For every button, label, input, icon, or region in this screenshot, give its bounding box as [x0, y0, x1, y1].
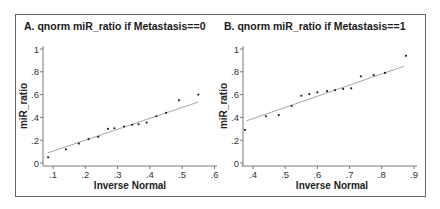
x-tick-label: .4	[249, 169, 257, 180]
y-tick-label: .6	[231, 89, 239, 100]
y-tick-label: .4	[31, 112, 39, 123]
x-tick-label: .6	[313, 169, 321, 180]
data-point	[65, 148, 67, 150]
y-tick-label: .6	[31, 89, 39, 100]
data-point	[97, 136, 99, 138]
data-point	[334, 89, 336, 91]
y-tick-label: 1	[34, 44, 39, 55]
panel-b-y-axis-title: miR_ratio	[218, 83, 229, 129]
data-point	[137, 123, 139, 125]
panel-a-y-axis-title: miR_ratio	[18, 83, 29, 129]
x-tick-label: .4	[146, 169, 154, 180]
reference-fit-line	[48, 102, 198, 153]
data-point	[87, 138, 89, 140]
data-point	[373, 74, 375, 76]
data-point	[178, 99, 180, 101]
data-point	[197, 94, 199, 96]
data-point	[308, 93, 310, 95]
data-point	[405, 55, 407, 57]
panel-b-metastasis-1: B. qnorm miR_ratio if Metastasis==1 miR_…	[218, 20, 418, 191]
panel-a-x-ticks: .1.2.3.4.5.6	[43, 166, 218, 180]
data-point	[47, 156, 49, 158]
data-point	[113, 127, 115, 129]
x-tick-label: .6	[211, 169, 219, 180]
qnorm-plots-svg: A. qnorm miR_ratio if Metastasis==0 miR_…	[0, 0, 440, 209]
x-tick-label: .5	[281, 169, 289, 180]
panel-a-x-axis-title: Inverse Normal	[94, 180, 166, 191]
panel-a-y-ticks: 0.2.4.6.81	[31, 44, 43, 169]
y-tick-label: .2	[231, 135, 239, 146]
x-tick-label: .1	[49, 169, 57, 180]
qnorm-figure: A. qnorm miR_ratio if Metastasis==0 miR_…	[0, 0, 440, 209]
y-tick-label: 1	[234, 44, 239, 55]
x-tick-label: .9	[410, 169, 418, 180]
x-tick-label: .7	[346, 169, 354, 180]
y-tick-label: .4	[231, 112, 239, 123]
panel-b-y-ticks: 0.2.4.6.81	[231, 44, 243, 169]
data-point	[350, 87, 352, 89]
reference-fit-line	[247, 66, 405, 121]
panel-b-x-ticks: .4.5.6.7.8.9	[241, 166, 418, 180]
data-point	[146, 121, 148, 123]
x-tick-label: .2	[81, 169, 89, 180]
data-point	[123, 125, 125, 127]
y-tick-label: .8	[231, 66, 239, 77]
data-point	[265, 115, 267, 117]
panel-a-plot-area	[47, 94, 199, 159]
data-point	[131, 124, 133, 126]
y-tick-label: 0	[34, 158, 39, 169]
panel-a-title: A. qnorm miR_ratio if Metastasis==0	[24, 20, 206, 32]
data-point	[155, 115, 157, 117]
data-point	[165, 112, 167, 114]
data-point	[316, 91, 318, 93]
y-tick-label: .8	[31, 66, 39, 77]
data-point	[278, 114, 280, 116]
data-point	[342, 88, 344, 90]
data-point	[384, 72, 386, 74]
panel-b-title: B. qnorm miR_ratio if Metastasis==1	[224, 20, 406, 32]
x-tick-label: .5	[178, 169, 186, 180]
data-point	[244, 129, 246, 131]
panel-b-plot-area	[244, 55, 407, 131]
y-tick-label: 0	[234, 158, 239, 169]
y-tick-label: .2	[31, 135, 39, 146]
x-tick-label: .3	[114, 169, 122, 180]
panel-a-metastasis-0: A. qnorm miR_ratio if Metastasis==0 miR_…	[18, 20, 218, 191]
x-tick-label: .8	[378, 169, 386, 180]
data-point	[300, 95, 302, 97]
data-point	[291, 105, 293, 107]
data-point	[360, 75, 362, 77]
data-point	[326, 90, 328, 92]
data-point	[78, 143, 80, 145]
data-point	[107, 128, 109, 130]
panel-b-x-axis-title: Inverse Normal	[296, 180, 368, 191]
